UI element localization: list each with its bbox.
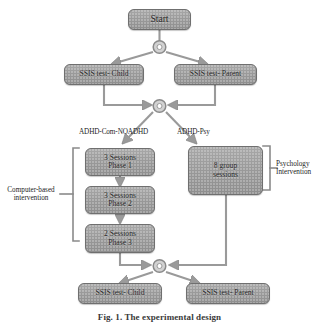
- group-label-psychology: Psychology Intervention: [276, 160, 319, 177]
- group-label-psychology-line2: Intervention: [276, 168, 311, 176]
- node-ssis-test-child-pre-label: SSIS test- Child: [80, 70, 129, 79]
- node-group-sessions-line2: sessions: [213, 171, 238, 180]
- node-phase-1[interactable]: 3 Sessions Phase 1: [85, 148, 155, 176]
- node-phase-2-line2: Phase 2: [108, 200, 131, 209]
- figure-caption-text: Fig. 1. The experimental design: [98, 312, 221, 322]
- node-phase-3[interactable]: 2 Sessions Phase 3: [85, 224, 155, 253]
- node-ssis-test-parent-post-label: SSIS test- Parent: [202, 289, 253, 298]
- group-label-computer-based-line2: intervention: [14, 194, 49, 202]
- node-ssis-test-parent-post[interactable]: SSIS test- Parent: [186, 283, 270, 304]
- group-label-computer-based-line1: Computer-based: [7, 186, 54, 194]
- node-phase-3-line2: Phase 3: [108, 239, 131, 248]
- node-phase-1-line2: Phase 1: [108, 162, 131, 171]
- node-ssis-test-parent-pre-label: SSIS test- Parent: [190, 70, 241, 79]
- group-label-psychology-line1: Psychology: [276, 160, 310, 168]
- edge-label-left-branch: ADHD-Com-NOADHD: [79, 128, 148, 136]
- node-ssis-test-child-pre[interactable]: SSIS test- Child: [64, 64, 144, 85]
- node-phase-2[interactable]: 3 Sessions Phase 2: [85, 186, 155, 214]
- node-group-sessions[interactable]: 8 group sessions: [188, 146, 263, 195]
- node-ssis-test-child-post[interactable]: SSIS test- Child: [78, 283, 162, 304]
- group-label-computer-based: Computer-based intervention: [1, 186, 61, 203]
- node-start-label: Start: [151, 14, 169, 25]
- junction-rings: [153, 41, 166, 273]
- node-ssis-test-parent-pre[interactable]: SSIS test- Parent: [174, 64, 257, 85]
- edge-label-right-branch-text: ADHD-Psy: [177, 128, 210, 136]
- node-ssis-test-child-post-label: SSIS test- Child: [96, 289, 145, 298]
- node-start[interactable]: Start: [128, 9, 191, 30]
- edge-label-left-branch-text: ADHD-Com-NOADHD: [79, 128, 148, 136]
- edge-label-right-branch: ADHD-Psy: [177, 128, 210, 136]
- figure-caption: Fig. 1. The experimental design: [0, 312, 319, 322]
